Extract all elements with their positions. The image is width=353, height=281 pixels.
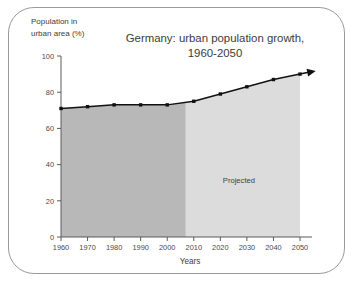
- chart-title-line-2: 1960-2050: [188, 47, 242, 59]
- data-point-marker: [86, 105, 89, 108]
- series-arrow-head: [307, 69, 316, 77]
- x-tick-label: 2050: [292, 243, 308, 252]
- y-axis-ticks: [57, 56, 61, 237]
- data-point-marker: [166, 103, 169, 106]
- y-axis-label-line-2: urban area (%): [31, 29, 85, 38]
- data-point-marker: [219, 92, 222, 95]
- chart-title-line-1: Germany: urban population growth,: [126, 32, 305, 44]
- x-tick-label: 1980: [106, 243, 122, 252]
- y-tick-label: 80: [46, 88, 54, 97]
- y-tick-label: 60: [46, 124, 54, 133]
- x-axis-ticks: [61, 237, 300, 241]
- projected-annotation-label: Projected: [223, 176, 255, 185]
- area-regions: [61, 74, 300, 237]
- x-tick-label: 1970: [79, 243, 95, 252]
- y-axis-tick-labels: 020406080100: [42, 52, 54, 242]
- x-tick-label: 2000: [159, 243, 175, 252]
- x-axis-label: Years: [180, 257, 201, 266]
- data-point-marker: [298, 72, 301, 75]
- y-axis-label-line-1: Population in: [31, 17, 77, 26]
- x-tick-label: 2020: [212, 243, 228, 252]
- x-axis-tick-labels: 1960197019801990200020102020203020402050: [53, 243, 308, 252]
- y-tick-label: 100: [42, 52, 54, 61]
- data-point-marker: [59, 107, 62, 110]
- chart-figure: 020406080100 196019701980199020002010202…: [0, 0, 353, 281]
- data-point-marker: [112, 103, 115, 106]
- y-tick-label: 0: [50, 233, 54, 242]
- x-tick-label: 2030: [239, 243, 255, 252]
- historical-area-region: [61, 102, 186, 237]
- x-tick-label: 1960: [53, 243, 69, 252]
- data-point-marker: [245, 85, 248, 88]
- data-point-marker: [139, 103, 142, 106]
- y-tick-label: 20: [46, 197, 54, 206]
- x-tick-label: 2010: [186, 243, 202, 252]
- data-point-marker: [192, 100, 195, 103]
- x-tick-label: 1990: [132, 243, 148, 252]
- y-tick-label: 40: [46, 160, 54, 169]
- x-tick-label: 2040: [265, 243, 281, 252]
- data-point-marker: [272, 78, 275, 81]
- chart-canvas: 020406080100 196019701980199020002010202…: [0, 0, 353, 281]
